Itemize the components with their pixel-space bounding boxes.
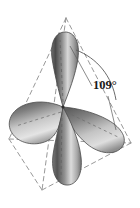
orbital-center-node: [61, 105, 64, 108]
lobe-left: [9, 102, 63, 144]
orbital-diagram-svg: [0, 0, 140, 208]
lobe-up: [52, 32, 79, 107]
orbital-figure: 109°: [0, 0, 140, 208]
bond-angle-label: 109°: [93, 79, 117, 92]
tetra-edge-backleft-frontleft: [9, 139, 42, 190]
